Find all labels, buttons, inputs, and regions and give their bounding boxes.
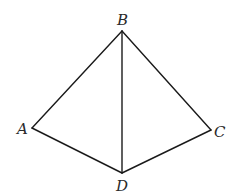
vertex-label-a: A [15,120,28,138]
vertex-label-c: C [214,123,226,141]
edge-da [32,128,122,173]
edges [32,31,211,173]
edge-bc [122,31,211,130]
edge-cd [122,130,211,173]
quadrilateral-diagram: B A C D [0,0,234,193]
vertex-label-b: B [116,11,128,29]
edge-ab [32,31,122,128]
vertex-labels: B A C D [15,11,226,193]
vertex-label-d: D [115,177,128,193]
